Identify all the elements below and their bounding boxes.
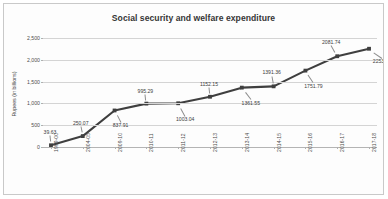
y-tick-mark (41, 82, 43, 83)
data-label: 1003.04 (176, 116, 194, 122)
y-tick-label: 2,000 (27, 57, 40, 63)
x-tick-mark (115, 147, 116, 149)
data-label: 837.91 (113, 122, 129, 128)
y-tick-mark (41, 125, 43, 126)
data-label: 1361.55 (242, 100, 260, 106)
x-tick-label: 2017-18 (371, 133, 377, 152)
x-tick-mark (242, 147, 243, 149)
y-tick-mark (41, 60, 43, 61)
x-tick-mark (51, 147, 52, 149)
y-tick-label: 1,000 (27, 100, 40, 106)
x-tick-label: 2016-17 (339, 133, 345, 152)
data-label: 250.07 (73, 120, 89, 126)
x-tick-label: 2013-14 (244, 133, 250, 152)
x-tick-label: 2004-05 (85, 133, 91, 152)
x-tick-mark (83, 147, 84, 149)
chart-title: Social security and welfare expenditure (4, 13, 383, 23)
x-tick-mark (369, 147, 370, 149)
x-tick-label: 2010-11 (148, 133, 154, 152)
x-tick-mark (274, 147, 275, 149)
data-point-marker (113, 109, 117, 113)
y-tick-mark (41, 38, 43, 39)
gridline (43, 125, 377, 126)
x-tick-mark (210, 147, 211, 149)
y-tick-label: 1,500 (27, 79, 40, 85)
x-tick-label: 2015-16 (307, 133, 313, 152)
data-point-marker (272, 84, 276, 88)
x-tick-label: 2012-13 (212, 133, 218, 152)
data-label: 1391.36 (262, 69, 280, 75)
x-tick-label: 2011-12 (180, 133, 186, 152)
data-point-marker (367, 47, 371, 51)
x-tick-label: 2009-10 (117, 133, 123, 152)
y-tick-label: 500 (31, 122, 40, 128)
gridline (43, 60, 377, 61)
gridline (43, 103, 377, 104)
plot-area: 05001,0001,5002,0002,50039.63250.07837.9… (43, 38, 377, 147)
data-point-marker (208, 95, 212, 99)
data-label: 1152.15 (200, 81, 218, 87)
data-point-marker (304, 69, 308, 73)
y-tick-label: 0 (37, 144, 40, 150)
chart-container: Social security and welfare expenditure … (3, 3, 384, 195)
x-axis: 1999-002004-052009-102010-112011-122012-… (43, 148, 377, 194)
data-label: 2253.74 (373, 58, 384, 64)
data-point-marker (240, 86, 244, 90)
x-tick-label: 1999-00 (53, 133, 59, 152)
y-axis-title: Rupees (in billions) (11, 56, 17, 132)
x-tick-label: 2014-15 (276, 133, 282, 152)
y-tick-mark (41, 103, 43, 104)
data-point-marker (335, 54, 339, 58)
data-label: 995.29 (138, 88, 154, 94)
data-label: 1751.79 (304, 83, 322, 89)
y-tick-label: 2,500 (27, 35, 40, 41)
